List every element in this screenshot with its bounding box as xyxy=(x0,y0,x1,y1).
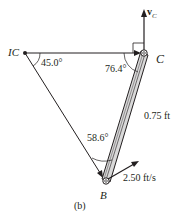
line-ic-to-b xyxy=(25,53,102,176)
label-b: B xyxy=(100,190,107,201)
angle-label-b: 58.6° xyxy=(87,133,109,143)
bar-length-label: 0.75 ft xyxy=(144,111,170,121)
velocity-c-subscript: C xyxy=(152,12,157,20)
label-ic: IC xyxy=(8,47,19,58)
figure-caption: (b) xyxy=(74,201,86,211)
arrowhead-ic-b xyxy=(97,170,103,178)
label-velocity-c: vC xyxy=(147,7,157,20)
velocity-b-label: 2.50 ft/s xyxy=(123,173,156,183)
label-c: C xyxy=(156,53,164,65)
ic-point xyxy=(23,51,27,55)
velocity-b-arrowhead xyxy=(131,161,139,167)
angle-label-ic: 45.0° xyxy=(41,58,63,68)
angle-arc-ic xyxy=(33,53,40,66)
angle-label-c: 76.4° xyxy=(105,64,127,74)
pin-c xyxy=(141,50,147,56)
